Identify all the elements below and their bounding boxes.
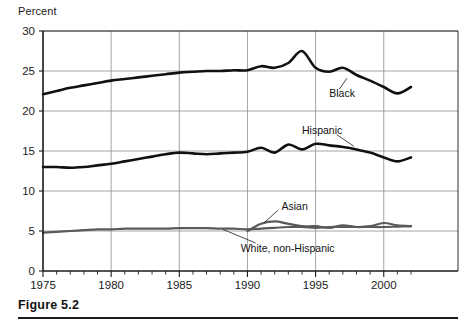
- y-axis-tick-label: 5: [29, 225, 35, 237]
- series-annotation-label: Hispanic: [302, 124, 342, 136]
- series-line-white-non-hispanic: [43, 226, 411, 232]
- line-chart: 051015202530197519801985199019952000 Bla…: [0, 0, 472, 300]
- x-axis-tick-label: 1990: [235, 279, 261, 291]
- y-axis-tick-label: 10: [22, 185, 35, 197]
- y-axis-tick-label: 25: [22, 65, 35, 77]
- y-axis-tick-label: 0: [29, 265, 35, 277]
- y-axis-tick-label: 30: [22, 25, 35, 37]
- x-axis-tick-label: 2000: [371, 279, 397, 291]
- x-axis-tick-label: 1995: [303, 279, 329, 291]
- figure-container: Percent 05101520253019751980198519901995…: [0, 0, 472, 322]
- x-axis-tick-label: 1980: [98, 279, 124, 291]
- x-axis-tick-label: 1975: [30, 279, 56, 291]
- axis-labels-layer: 051015202530197519801985199019952000: [22, 25, 396, 291]
- figure-caption: Figure 5.2: [18, 298, 79, 312]
- annotation-leader-line: [337, 135, 354, 147]
- leader-lines-layer: [223, 78, 354, 243]
- series-line-black: [43, 51, 411, 94]
- x-axis-tick-label: 1985: [167, 279, 193, 291]
- series-layer: [43, 51, 411, 233]
- y-axis-tick-label: 15: [22, 145, 35, 157]
- caption-divider: [18, 317, 458, 319]
- series-annotation-label: White, non-Hispanic: [241, 242, 335, 254]
- series-line-hispanic: [43, 144, 411, 168]
- series-annotation-label: Asian: [282, 200, 308, 212]
- series-annotation-label: Black: [329, 87, 355, 99]
- y-axis-tick-label: 20: [22, 105, 35, 117]
